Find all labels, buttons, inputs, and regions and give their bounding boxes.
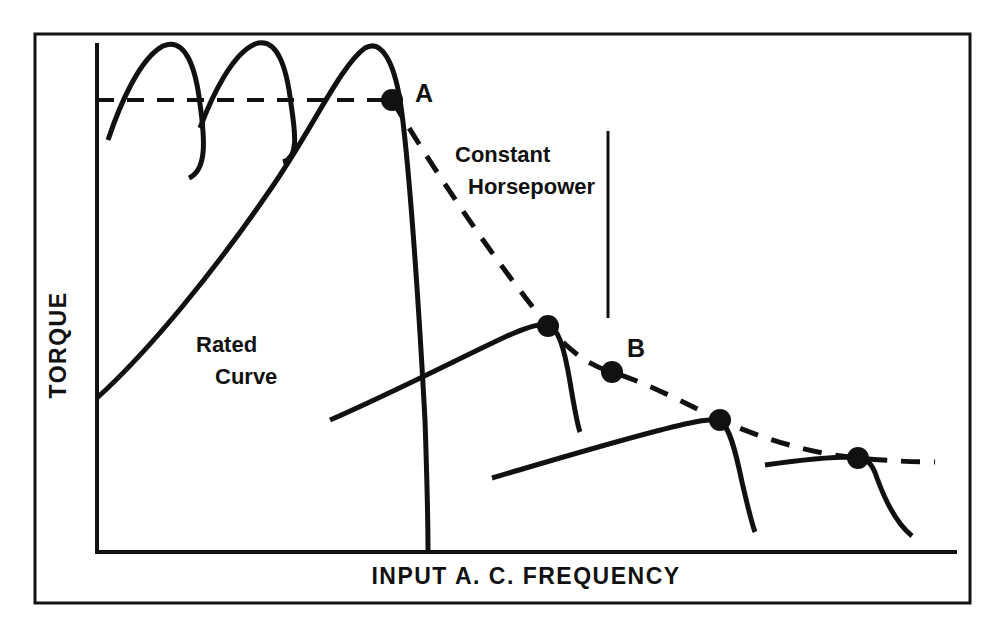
- constant-hp-label-line1: Constant: [455, 142, 551, 167]
- figure-background: [0, 0, 996, 622]
- point-b: [601, 361, 623, 383]
- point-b-label: B: [627, 334, 645, 362]
- rated-curve-label-line1: Rated: [196, 332, 257, 357]
- point-a-label: A: [415, 79, 433, 107]
- point-a: [381, 89, 403, 111]
- rated-curve-label-line2: Curve: [215, 364, 277, 389]
- peak-point-2: [537, 315, 559, 337]
- peak-point-4: [847, 447, 869, 469]
- y-axis-label: TORQUE: [45, 292, 71, 399]
- x-axis-label: INPUT A. C. FREQUENCY: [371, 563, 680, 589]
- figure-root: ABRatedCurveConstantHorsepower INPUT A. …: [0, 0, 996, 622]
- constant-hp-label-line2: Horsepower: [468, 174, 596, 199]
- peak-point-3: [709, 409, 731, 431]
- torque-frequency-chart: ABRatedCurveConstantHorsepower INPUT A. …: [0, 0, 996, 622]
